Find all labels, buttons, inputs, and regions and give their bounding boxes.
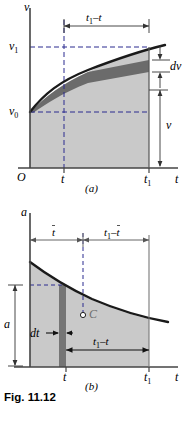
panel-b-panel-label: (b) [85,380,98,392]
panel-a-dim-top-label: t1–t [86,11,102,26]
panel-b-dim-t1-minus-t-label: t1–t [93,335,109,350]
panel-b-dim-a [8,285,23,366]
panel-b-dt-strip [59,285,66,367]
panel-a-dim-dv [152,45,170,88]
panel-b-dim-tbar-label: t [52,226,55,238]
panel-b-centroid-marker [80,312,85,317]
panel-a: v v1 v0 O t t1 t t1–t dv v (a) [0,0,190,205]
panel-a-dim-top [64,19,149,33]
panel-b-svg [0,205,190,390]
panel-b-dim-a-label: a [4,317,10,332]
panel-b-yaxis-label: a [21,205,27,220]
figure-caption: Fig. 11.12 [4,391,56,403]
panel-a-dim-v-label: v [166,118,171,133]
panel-b-dim-t1-minus-tbar-label: t1–t [104,226,120,241]
panel-a-svg [0,0,190,205]
panel-b: a t t1–t a dt C t1–t t t1 t (b) [0,205,190,390]
panel-b-xtick-t1: t1 [144,370,151,386]
panel-a-xtick-t: t [61,172,64,187]
panel-b-dim-dt-label: dt [30,326,39,341]
panel-a-ytick-v1: v1 [9,39,18,55]
panel-b-centroid-label: C [89,307,97,322]
panel-b-xtick-t: t [63,370,66,385]
panel-a-origin-label: O [17,170,26,185]
panel-b-xaxis-label: t [175,370,178,385]
panel-a-yaxis-label: v [24,0,29,15]
panel-b-dim-tbar [30,238,83,243]
panel-a-dim-dv-label: dv [170,59,181,74]
panel-a-xaxis-label: t [175,172,178,187]
panel-a-xtick-t1: t1 [144,172,151,188]
panel-a-panel-label: (a) [85,182,98,194]
panel-a-ytick-v0: v0 [9,104,18,120]
